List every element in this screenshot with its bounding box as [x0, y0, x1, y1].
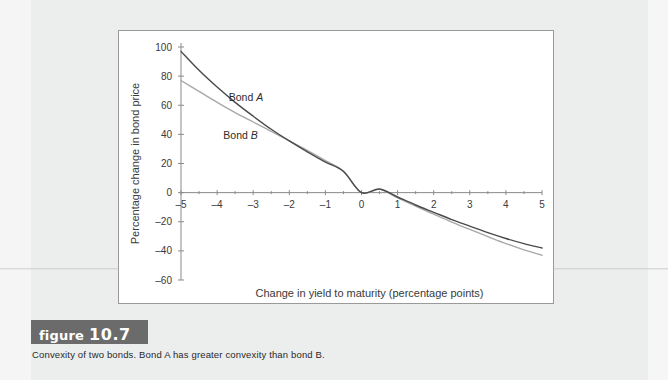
- page-left-margin: [0, 0, 31, 380]
- svg-text:–40: –40: [155, 245, 172, 256]
- svg-text:–5: –5: [175, 199, 187, 210]
- chart-axes: [178, 43, 542, 280]
- svg-text:20: 20: [161, 158, 173, 169]
- svg-text:2: 2: [431, 199, 437, 210]
- convexity-line-chart: –5–4–3–2–1012345–60–40–20020406080100 Bo…: [119, 31, 555, 305]
- svg-text:4: 4: [503, 199, 509, 210]
- svg-text:5: 5: [539, 199, 545, 210]
- svg-text:–20: –20: [155, 216, 172, 227]
- page-right-margin: [648, 0, 668, 380]
- svg-text:0: 0: [166, 187, 172, 198]
- x-axis-title: Change in yield to maturity (percentage …: [255, 287, 483, 299]
- svg-text:1: 1: [395, 199, 401, 210]
- chart-series-annotations: Bond ABond B: [223, 91, 263, 141]
- svg-text:–3: –3: [248, 199, 260, 210]
- svg-text:0: 0: [359, 199, 365, 210]
- y-axis-title: Percentage change in bond price: [129, 83, 141, 244]
- svg-text:–2: –2: [284, 199, 296, 210]
- figure-tag-word: figure: [39, 328, 84, 343]
- svg-text:80: 80: [161, 71, 173, 82]
- svg-text:60: 60: [161, 100, 173, 111]
- figure-tag-label: figure10.7: [39, 325, 131, 344]
- annotation-bond-a: Bond A: [229, 91, 263, 103]
- chart-series-curves: [181, 51, 542, 255]
- svg-text:–4: –4: [212, 199, 224, 210]
- svg-text:40: 40: [161, 129, 173, 140]
- svg-text:–60: –60: [155, 275, 172, 286]
- chart-tick-labels: –5–4–3–2–1012345–60–40–20020406080100: [155, 42, 545, 286]
- svg-text:–1: –1: [320, 199, 332, 210]
- chart-panel: –5–4–3–2–1012345–60–40–20020406080100 Bo…: [118, 30, 554, 304]
- figure-number: 10.7: [89, 325, 130, 344]
- annotation-bond-b: Bond B: [223, 129, 257, 141]
- curve-bond-a: [181, 51, 542, 248]
- chart-axis-titles: Change in yield to maturity (percentage …: [129, 83, 484, 299]
- svg-text:3: 3: [467, 199, 473, 210]
- svg-text:100: 100: [155, 42, 172, 53]
- curve-bond-b: [181, 80, 542, 255]
- figure-caption: Convexity of two bonds. Bond A has great…: [32, 349, 592, 360]
